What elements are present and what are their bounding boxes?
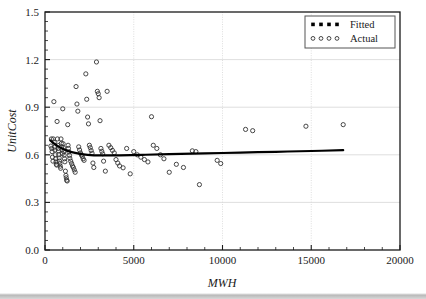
chart-legend[interactable]: FittedActual	[305, 16, 395, 48]
x-tick-label: 0	[42, 254, 48, 266]
y-tick-label: 0.6	[25, 149, 39, 161]
figure-container: 05000100001500020000 0.00.30.60.91.21.5 …	[0, 0, 426, 299]
legend-label: Fitted	[350, 19, 375, 30]
y-tick-label: 0.9	[25, 101, 39, 113]
legend-marker-square	[311, 23, 315, 27]
y-tick-labels: 0.00.30.60.91.21.5	[25, 6, 39, 256]
x-axis-title: MWH	[207, 276, 238, 290]
legend-marker-square	[335, 23, 339, 27]
y-tick-label: 0.0	[25, 244, 39, 256]
y-tick-label: 1.5	[25, 6, 39, 18]
x-tick-labels: 05000100001500020000	[42, 254, 414, 266]
scatter-chart: 05000100001500020000 0.00.30.60.91.21.5 …	[0, 0, 426, 299]
x-tick-label: 20000	[386, 254, 414, 266]
bottom-band	[0, 293, 426, 299]
legend-label: Actual	[350, 33, 378, 44]
x-tick-label: 5000	[123, 254, 146, 266]
y-tick-label: 1.2	[25, 54, 39, 66]
legend-marker-square	[319, 23, 323, 27]
y-axis-title: UnitCost	[5, 109, 19, 153]
x-tick-label: 10000	[209, 254, 237, 266]
legend-marker-square	[327, 23, 331, 27]
y-tick-label: 0.3	[25, 196, 39, 208]
x-tick-label: 15000	[298, 254, 326, 266]
